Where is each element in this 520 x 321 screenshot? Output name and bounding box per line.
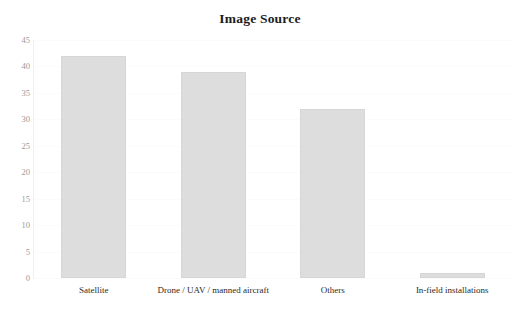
- bar-3[interactable]: [300, 109, 365, 278]
- y-axis-tick-label: 15: [4, 194, 30, 203]
- y-axis-tick-label: 10: [4, 221, 30, 230]
- bar-2[interactable]: [181, 72, 246, 278]
- bar-1[interactable]: [61, 56, 126, 278]
- y-axis-tick-label: 20: [4, 168, 30, 177]
- y-axis-tick-labels: 051015202530354045: [0, 0, 30, 321]
- gridline: [34, 40, 512, 41]
- y-axis-tick-label: 40: [4, 62, 30, 71]
- bar-4[interactable]: [420, 273, 485, 278]
- y-axis-tick-label: 25: [4, 142, 30, 151]
- plot-area: [34, 40, 512, 278]
- chart-title: Image Source: [0, 11, 520, 27]
- y-axis-tick-label: 0: [4, 274, 30, 283]
- x-axis-category-label: Satellite: [34, 285, 154, 296]
- y-axis-tick-label: 35: [4, 89, 30, 98]
- x-axis-category-label: In-field installations: [393, 285, 513, 296]
- gridline: [34, 278, 512, 279]
- y-axis-tick-label: 5: [4, 247, 30, 256]
- y-axis-tick-label: 30: [4, 115, 30, 124]
- x-axis-category-label: Drone / UAV / manned aircraft: [154, 285, 274, 296]
- y-axis-tick-label: 45: [4, 36, 30, 45]
- bar-chart: Image Source 051015202530354045 Satellit…: [0, 0, 520, 321]
- x-axis-category-label: Others: [273, 285, 393, 296]
